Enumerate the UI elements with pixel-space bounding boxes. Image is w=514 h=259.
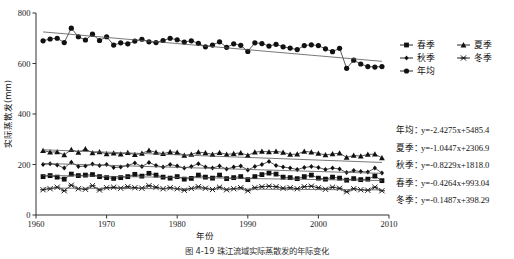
marker-diamond [373, 166, 377, 171]
equation-label: 春季： [396, 177, 423, 188]
marker-square [168, 176, 173, 181]
marker-square [358, 177, 363, 182]
marker-diamond [281, 165, 285, 170]
marker-diamond [302, 165, 306, 170]
legend-item-秋季[interactable]: 秋季 [400, 52, 435, 63]
marker-square [309, 173, 314, 178]
marker-circle [203, 44, 208, 49]
marker-x [224, 187, 230, 192]
equation-年均: 年均：y=-2.4275x+5485.4 [396, 124, 490, 135]
marker-x [104, 185, 110, 190]
marker-circle [281, 44, 286, 49]
marker-circle [288, 45, 293, 50]
marker-square [224, 176, 229, 181]
marker-diamond [253, 164, 257, 169]
figure-container: 0200400600800196019701980199020002010 春季… [0, 0, 514, 259]
marker-circle [48, 36, 53, 41]
legend-item-冬季[interactable]: 冬季 [457, 52, 492, 63]
chart-series-layer [40, 26, 385, 195]
marker-x [238, 185, 244, 190]
series-0 [40, 26, 384, 71]
x-tick-label: 1970 [98, 219, 115, 229]
equation-formula: y=-0.1487x+398.29 [421, 195, 489, 205]
equation-formula: y=-2.4275x+5485.4 [421, 125, 490, 135]
marker-circle [404, 68, 409, 73]
equation-label: 冬季： [396, 194, 423, 205]
marker-triangle [379, 155, 385, 160]
marker-diamond [217, 164, 221, 169]
equation-秋季: 秋季：y=-0.8229x+1818.0 [396, 159, 489, 170]
y-axis-title: 实际蒸散发(mm) [3, 80, 13, 148]
marker-x [301, 184, 307, 189]
marker-x [47, 186, 53, 191]
series-1 [40, 146, 385, 160]
marker-diamond [104, 162, 108, 167]
marker-circle [153, 40, 158, 45]
marker-x [280, 186, 286, 191]
marker-circle [125, 41, 130, 46]
marker-triangle [195, 149, 201, 154]
marker-diamond [288, 166, 292, 171]
marker-circle [259, 41, 264, 46]
marker-circle [323, 46, 328, 51]
x-tick-label: 2010 [381, 219, 398, 229]
legend-label: 冬季 [474, 52, 492, 63]
marker-square [295, 176, 300, 181]
marker-x [259, 184, 265, 189]
marker-square [175, 174, 180, 179]
marker-triangle [259, 148, 265, 153]
x-tick-label: 1960 [28, 219, 45, 229]
marker-circle [168, 36, 173, 41]
equation-formula: y=-0.8229x+1818.0 [421, 160, 489, 170]
marker-diamond [41, 162, 45, 167]
marker-diamond [62, 166, 66, 171]
x-tick-label: 2000 [310, 219, 327, 229]
marker-square [323, 177, 328, 182]
y-tick-label: 400 [18, 109, 31, 119]
marker-triangle [351, 153, 357, 158]
marker-circle [104, 34, 109, 39]
marker-square [41, 174, 46, 179]
marker-circle [55, 36, 60, 41]
marker-circle [337, 46, 342, 51]
marker-diamond [203, 165, 207, 170]
marker-x [330, 185, 336, 190]
marker-circle [252, 40, 257, 45]
legend-item-夏季[interactable]: 夏季 [457, 39, 492, 50]
marker-triangle [301, 148, 307, 153]
marker-triangle [217, 150, 223, 155]
marker-x [167, 185, 173, 190]
marker-circle [372, 64, 377, 69]
marker-diamond [168, 162, 172, 167]
marker-x [372, 185, 378, 190]
marker-x [54, 185, 60, 190]
chart-axis-titles: 实际蒸散发(mm)年份 [3, 80, 214, 241]
series-3 [41, 171, 385, 183]
marker-diamond [154, 163, 158, 168]
marker-circle [379, 64, 384, 69]
marker-circle [146, 39, 151, 44]
marker-square [267, 171, 272, 176]
legend-item-春季[interactable]: 春季 [400, 39, 435, 50]
marker-diamond [330, 166, 334, 171]
marker-square [189, 176, 194, 181]
chart-svg: 0200400600800196019701980199020002010 春季… [0, 0, 514, 259]
legend-label: 年均 [417, 65, 435, 76]
legend-item-年均[interactable]: 年均 [400, 65, 435, 76]
equation-夏季: 夏季：y=-1.0447x+2306.9 [396, 142, 489, 153]
equation-label: 年均： [396, 124, 423, 135]
equation-label: 秋季： [396, 159, 423, 170]
marker-diamond [182, 166, 186, 171]
marker-diamond [147, 160, 151, 165]
marker-x [308, 184, 314, 189]
marker-triangle [337, 150, 343, 155]
marker-diamond [404, 56, 408, 61]
marker-square [260, 172, 265, 177]
x-tick-label: 1990 [239, 219, 256, 229]
marker-diamond [189, 164, 193, 169]
marker-circle [175, 37, 180, 42]
marker-x [146, 183, 152, 188]
marker-circle [309, 42, 314, 47]
marker-circle [365, 64, 370, 69]
marker-triangle [61, 152, 67, 157]
